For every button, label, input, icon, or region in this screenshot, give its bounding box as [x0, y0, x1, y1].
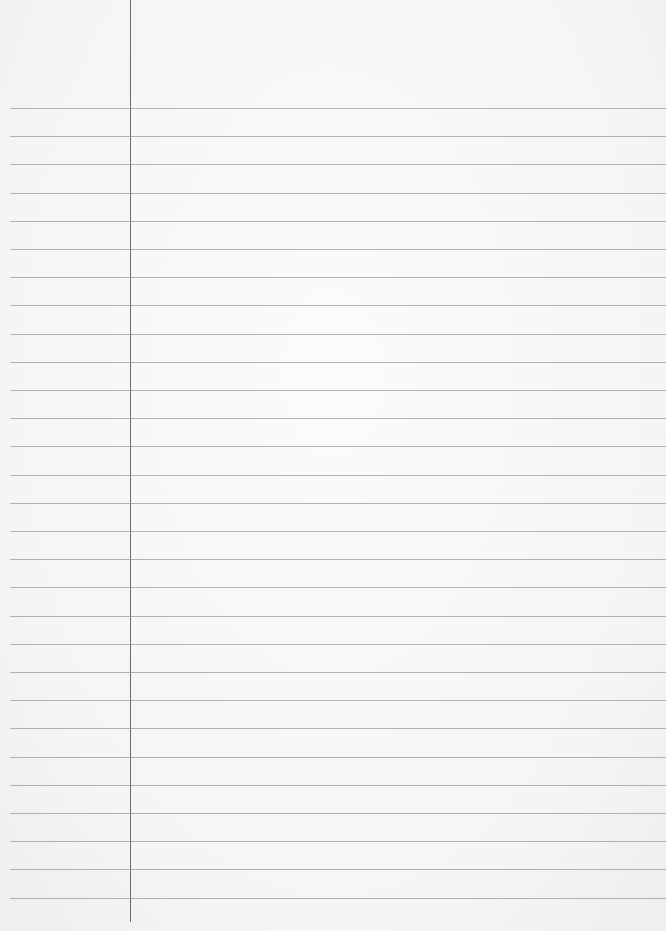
ruled-line: [10, 616, 666, 617]
ruled-line: [10, 390, 666, 391]
ruled-line: [10, 362, 666, 363]
ruled-line: [10, 841, 666, 842]
ruled-line: [10, 193, 666, 194]
ruled-line: [10, 475, 666, 476]
ruled-line: [10, 108, 666, 109]
ruled-line: [10, 898, 666, 899]
ruled-line: [10, 136, 666, 137]
ruled-line: [10, 249, 666, 250]
ruled-line: [10, 164, 666, 165]
ruled-line: [10, 587, 666, 588]
ruled-line: [10, 757, 666, 758]
lined-paper: [0, 0, 666, 931]
ruled-line: [10, 277, 666, 278]
ruled-line: [10, 700, 666, 701]
ruled-line: [10, 728, 666, 729]
ruled-line: [10, 305, 666, 306]
ruled-line: [10, 559, 666, 560]
ruled-line: [10, 869, 666, 870]
ruled-line: [10, 644, 666, 645]
ruled-line: [10, 334, 666, 335]
margin-line: [130, 0, 131, 922]
ruled-line: [10, 785, 666, 786]
ruled-line: [10, 813, 666, 814]
ruled-line: [10, 221, 666, 222]
ruled-line: [10, 531, 666, 532]
ruled-line: [10, 672, 666, 673]
ruled-line: [10, 446, 666, 447]
ruled-line: [10, 503, 666, 504]
ruled-line: [10, 418, 666, 419]
